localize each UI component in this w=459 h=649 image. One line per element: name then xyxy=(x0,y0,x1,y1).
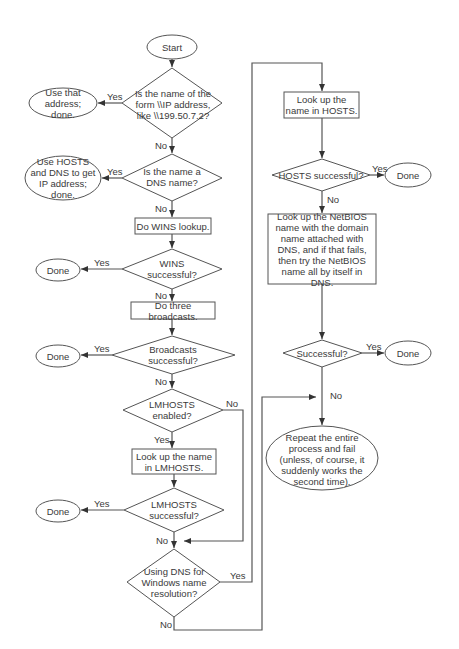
lmhosts-success-label: LMHOSTS successful? xyxy=(144,497,204,523)
hosts-success-label: HOSTS successful? xyxy=(276,168,366,182)
broadcasts-label: Do three broadcasts. xyxy=(131,302,215,319)
edge-label-no: No xyxy=(330,390,342,401)
edge-label-yes: Yes xyxy=(230,570,246,581)
edge-label-no: No xyxy=(155,376,167,387)
edge-label-yes: Yes xyxy=(107,166,123,177)
lmhosts-lookup-label: Look up the name in LMHOSTS. xyxy=(132,449,216,474)
successful-label: Successful? xyxy=(290,346,354,360)
lmhosts-enabled-label: LMHOSTS enabled? xyxy=(142,397,202,423)
done-wins-label: Done xyxy=(36,263,80,277)
flowchart: Start Is the name of the form \\IP addre… xyxy=(0,0,459,649)
edge-label-no: No xyxy=(155,290,167,301)
edge-label-yes: Yes xyxy=(372,163,388,174)
dns-for-windows-label: Using DNS for Windows name resolution? xyxy=(140,563,208,601)
edge-label-yes: Yes xyxy=(366,341,382,352)
edge-label-yes: Yes xyxy=(94,257,110,268)
edge-label-yes: Yes xyxy=(107,91,123,102)
edge-label-no: No xyxy=(155,140,167,151)
edge-label-no: No xyxy=(155,203,167,214)
repeat-fail-label: Repeat the entire process and fail (unle… xyxy=(272,436,372,482)
done-broadcasts-label: Done xyxy=(36,349,80,363)
ip-form-label: Is the name of the form \\IP address, li… xyxy=(134,78,212,130)
edge-label-yes: Yes xyxy=(94,498,110,509)
use-hosts-dns-label: Use HOSTS and DNS to get IP address; don… xyxy=(28,161,98,195)
done-final-label: Done xyxy=(386,346,430,360)
use-address-label: Use that address; done. xyxy=(32,91,94,115)
broadcasts-success-label: Broadcasts successful? xyxy=(142,342,204,368)
start-label: Start xyxy=(147,40,197,54)
wins-success-label: WINS successful? xyxy=(142,256,202,282)
edge-label-no: No xyxy=(327,194,339,205)
done-lmhosts-label: Done xyxy=(36,504,80,518)
edge-label-no: No xyxy=(160,619,172,630)
done-hosts-label: Done xyxy=(386,168,430,182)
wins-lookup-label: Do WINS lookup. xyxy=(135,218,211,234)
hosts-lookup-label: Look up the name in HOSTS. xyxy=(284,92,359,118)
edge-label-no: No xyxy=(156,535,168,546)
netbios-dns-label: Look up the NetBIOS name with the domain… xyxy=(270,216,374,282)
edge-label-yes: Yes xyxy=(94,343,110,354)
dns-name-label: Is the name a DNS name? xyxy=(138,164,206,190)
edge-label-no: No xyxy=(226,398,238,409)
edge-label-yes: Yes xyxy=(154,434,170,445)
